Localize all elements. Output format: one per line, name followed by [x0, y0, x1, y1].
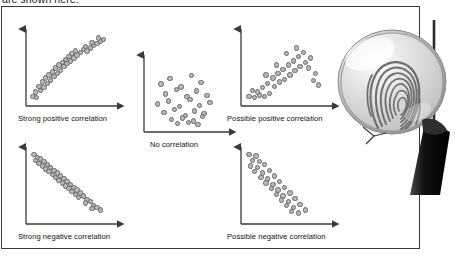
data-point: [200, 114, 205, 119]
data-point: [316, 82, 321, 87]
data-point: [260, 85, 265, 90]
data-point: [192, 108, 197, 113]
data-point: [284, 51, 289, 56]
panel-no-correlation: No correlation: [136, 48, 240, 154]
data-point: [197, 103, 202, 108]
data-point: [166, 98, 171, 103]
handle-collar: [422, 119, 447, 135]
cropped-heading-text: are shown here.: [2, 0, 79, 5]
data-points: [233, 140, 345, 228]
data-point: [262, 162, 267, 167]
data-points: [233, 22, 345, 110]
data-point: [269, 186, 274, 191]
plot-area: [233, 140, 345, 228]
data-point: [258, 175, 263, 180]
panel-label-no-correlation: No correlation: [150, 140, 198, 149]
panel-strong-negative-correlation: Strong negative correlation: [18, 140, 128, 246]
data-point: [297, 202, 302, 207]
data-point: [34, 95, 39, 100]
data-point: [313, 71, 318, 76]
data-points: [18, 22, 128, 110]
data-point: [303, 207, 308, 212]
data-point: [287, 190, 292, 195]
data-point: [246, 94, 251, 99]
data-point: [277, 179, 282, 184]
data-point: [270, 75, 275, 80]
data-point: [172, 107, 177, 112]
data-point: [158, 81, 163, 86]
data-point: [286, 62, 291, 67]
data-point: [282, 77, 287, 82]
data-point: [274, 192, 279, 197]
data-point: [267, 91, 272, 96]
data-point: [267, 168, 272, 173]
panel-label-strong-positive-correlation: Strong positive correlation: [18, 114, 107, 123]
data-point: [280, 67, 285, 72]
data-point: [167, 76, 172, 81]
data-point: [303, 60, 308, 65]
panel-label-possible-negative-correlation: Possible negative correlation: [227, 232, 326, 241]
data-point: [287, 72, 292, 77]
data-point: [252, 169, 257, 174]
data-point: [289, 209, 294, 214]
data-point: [174, 87, 179, 92]
plot-area: [18, 22, 128, 110]
data-point: [274, 62, 279, 67]
data-point: [207, 100, 212, 105]
data-point: [175, 121, 180, 126]
data-point: [297, 64, 302, 69]
data-point: [263, 180, 268, 185]
panel-possible-positive-correlation: Possible positive correlation: [233, 22, 345, 128]
data-point: [169, 117, 174, 122]
data-point: [178, 84, 183, 89]
data-point: [187, 97, 192, 102]
data-point: [195, 122, 200, 127]
data-point: [279, 197, 284, 202]
data-point: [180, 115, 185, 120]
data-point: [204, 93, 209, 98]
data-point: [296, 210, 301, 215]
data-point: [250, 158, 255, 163]
data-points: [136, 48, 240, 136]
data-point: [306, 65, 311, 70]
data-point: [155, 101, 160, 106]
data-point: [198, 80, 203, 85]
data-point: [161, 110, 166, 115]
data-point: [265, 81, 270, 86]
plot-area: [136, 48, 240, 136]
data-point: [98, 207, 103, 212]
data-point: [308, 55, 313, 60]
panel-label-strong-negative-correlation: Strong negative correlation: [18, 232, 110, 241]
data-point: [246, 152, 251, 157]
figure-page: are shown here. Strong positive correlat…: [0, 0, 468, 259]
data-point: [282, 185, 287, 190]
data-point: [275, 71, 280, 76]
data-point: [272, 84, 277, 89]
data-point: [163, 91, 168, 96]
data-point: [291, 58, 296, 63]
data-point: [296, 54, 301, 59]
data-point: [189, 73, 194, 78]
data-point: [301, 50, 306, 55]
data-point: [186, 120, 191, 125]
data-point: [194, 88, 199, 93]
data-point: [177, 104, 182, 109]
plot-area: [233, 22, 345, 110]
data-point: [284, 203, 289, 208]
data-point: [294, 45, 299, 50]
panel-strong-positive-correlation: Strong positive correlation: [18, 22, 128, 128]
data-point: [292, 196, 297, 201]
panel-label-possible-positive-correlation: Possible positive correlation: [227, 114, 323, 123]
data-point: [101, 37, 106, 42]
panel-possible-negative-correlation: Possible negative correlation: [233, 140, 345, 246]
data-point: [248, 163, 253, 168]
data-point: [263, 72, 268, 77]
plot-area: [18, 140, 128, 228]
data-point: [292, 68, 297, 73]
data-point: [255, 89, 260, 94]
data-point: [272, 173, 277, 178]
magnifying-glass-illustration: [330, 20, 468, 195]
data-points: [18, 140, 128, 228]
